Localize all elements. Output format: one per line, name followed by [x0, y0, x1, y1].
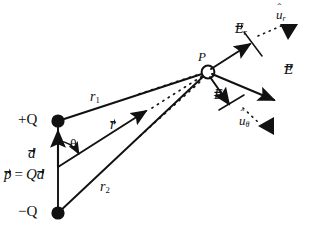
- label-vector-d: d: [28, 146, 36, 161]
- label-field-radial: Er: [235, 22, 247, 37]
- hat-accent-icon: ˆ: [276, 2, 283, 13]
- vector-r-extension: [152, 75, 204, 108]
- charge-negative-dot: [51, 206, 64, 219]
- label-field-total: E: [284, 62, 293, 77]
- unit-vector-radial-marker: [280, 24, 298, 40]
- label-charge-negative: −Q: [18, 204, 37, 219]
- label-vector-r: r: [110, 117, 116, 132]
- label-unit-vector-radial: uˆr: [276, 8, 286, 23]
- segment-r1: [58, 72, 208, 121]
- guide-dots-unit-radial: [258, 26, 281, 36]
- label-field-polar: Eθ: [214, 88, 227, 103]
- unit-vector-polar-marker: [258, 117, 274, 135]
- label-charge-positive: +Q: [18, 112, 37, 127]
- hat-accent-icon: ˆ: [239, 108, 246, 119]
- segment-r2: [58, 72, 208, 213]
- label-distance-r1: r1: [90, 90, 100, 105]
- label-angle-theta: θ: [70, 138, 77, 152]
- label-distance-r2: r2: [100, 180, 110, 195]
- label-dipole-moment-equation: p=Qd: [4, 167, 44, 182]
- vector-E-radial: [211, 44, 250, 69]
- diagram-canvas: [0, 0, 310, 230]
- charge-positive-dot: [51, 114, 64, 127]
- dipole-field-diagram: +Q −Q d θ p=Qd r r1 r2 P E Er Eθ uˆr uˆθ: [0, 0, 310, 230]
- label-field-point-P: P: [198, 50, 206, 63]
- label-unit-vector-polar: uˆθ: [239, 114, 249, 129]
